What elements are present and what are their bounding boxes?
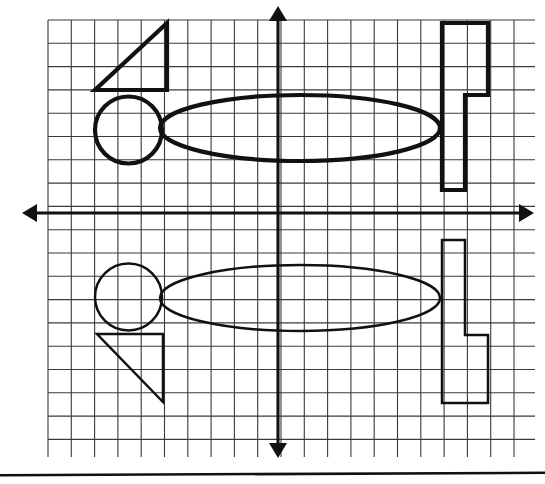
paper-background — [0, 0, 545, 484]
worksheet-canvas — [0, 0, 545, 484]
coordinate-grid-figure — [0, 0, 545, 484]
